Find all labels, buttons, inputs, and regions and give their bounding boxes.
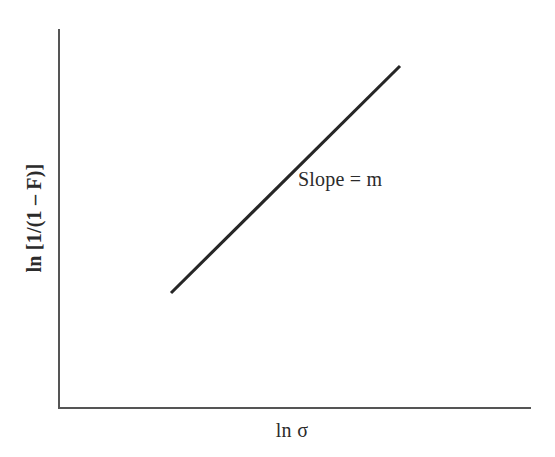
plot-canvas: [0, 0, 555, 457]
slope-annotation-label: Slope = m: [298, 169, 382, 189]
plot-background: [0, 0, 555, 457]
weibull-plot-figure: ln [1/(1 – F)] ln σ Slope = m: [0, 0, 555, 457]
x-axis-label: ln σ: [276, 420, 309, 440]
y-axis-label: ln [1/(1 – F)]: [24, 164, 44, 273]
